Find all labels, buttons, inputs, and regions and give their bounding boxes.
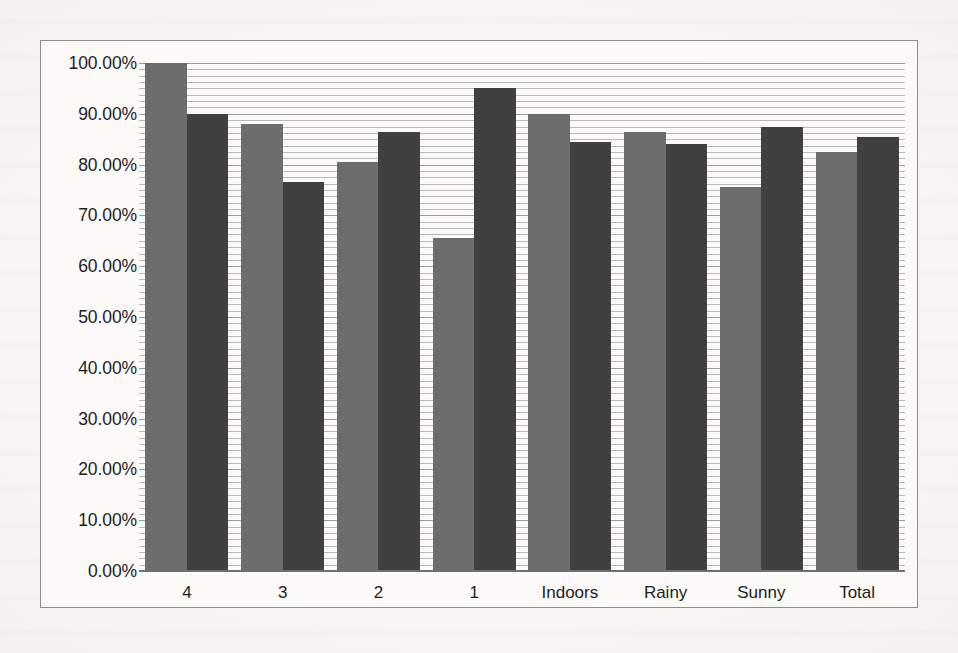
- x-axis-tick-label: Indoors: [542, 583, 599, 603]
- chart-figure: 0.00%10.00%20.00%30.00%40.00%50.00%60.00…: [40, 40, 918, 608]
- y-axis-tick-label: 50.00%: [45, 307, 137, 328]
- bar: [283, 182, 324, 571]
- y-axis-tick-label: 40.00%: [45, 357, 137, 378]
- y-axis: 0.00%10.00%20.00%30.00%40.00%50.00%60.00…: [41, 41, 137, 607]
- y-axis-tick-label: 100.00%: [45, 53, 137, 74]
- bar: [624, 132, 665, 571]
- bar: [241, 124, 282, 571]
- y-axis-tick-label: 30.00%: [45, 408, 137, 429]
- y-axis-tick-label: 20.00%: [45, 459, 137, 480]
- plot-area: [139, 63, 905, 571]
- bar: [857, 137, 898, 571]
- x-axis-tick-label: 4: [182, 583, 191, 603]
- y-axis-tick-label: 60.00%: [45, 256, 137, 277]
- bar: [187, 114, 228, 571]
- y-axis-tick-label: 70.00%: [45, 205, 137, 226]
- bar: [761, 127, 802, 572]
- x-axis-tick-label: 2: [374, 583, 383, 603]
- x-axis: 4321IndoorsRainySunnyTotal: [139, 579, 905, 609]
- bar: [378, 132, 419, 571]
- y-axis-tick-label: 90.00%: [45, 103, 137, 124]
- x-axis-tick-label: 3: [278, 583, 287, 603]
- bar: [570, 142, 611, 571]
- x-axis-tick-label: 1: [469, 583, 478, 603]
- bars-layer: [139, 63, 905, 571]
- y-axis-tick-label: 80.00%: [45, 154, 137, 175]
- bar: [816, 152, 857, 571]
- x-axis-tick-label: Rainy: [644, 583, 687, 603]
- x-axis-tick-label: Total: [839, 583, 875, 603]
- y-axis-tick-label: 10.00%: [45, 510, 137, 531]
- x-axis-tick-label: Sunny: [737, 583, 785, 603]
- bar: [337, 162, 378, 571]
- y-axis-tick-label: 0.00%: [45, 561, 137, 582]
- plot-wrapper: 0.00%10.00%20.00%30.00%40.00%50.00%60.00…: [41, 41, 917, 607]
- bar: [433, 238, 474, 571]
- bar: [666, 144, 707, 571]
- axis-baseline: [139, 570, 905, 572]
- bar: [720, 187, 761, 571]
- bar: [145, 63, 186, 571]
- bar: [528, 114, 569, 571]
- bar: [474, 88, 515, 571]
